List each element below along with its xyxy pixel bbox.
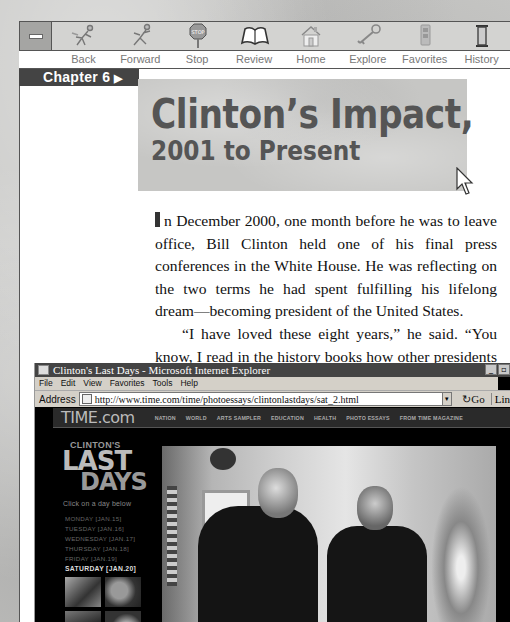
page-subtitle: 2001 to Present bbox=[151, 135, 360, 166]
url-text: http://www.time.com/time/photoessays/cli… bbox=[95, 394, 359, 405]
address-input[interactable]: http://www.time.com/time/photoessays/cli… bbox=[79, 392, 444, 406]
minimize-icon bbox=[29, 34, 43, 39]
back-label[interactable]: Back bbox=[55, 51, 111, 68]
ie-page-icon bbox=[38, 365, 49, 375]
links-button[interactable]: Lin bbox=[491, 393, 510, 405]
day-link-monday[interactable]: MONDAY [JAN.15] bbox=[65, 514, 136, 524]
nav-world[interactable]: WORLD bbox=[186, 415, 207, 421]
day-link-friday[interactable]: FRIDAY [JAN.19] bbox=[65, 554, 136, 564]
webpage-content: TIME.com NATION WORLD ARTS SAMPLER EDUCA… bbox=[35, 407, 510, 622]
nav-from-time-magazine[interactable]: FROM TIME MAGAZINE bbox=[400, 415, 463, 421]
running-figure-right-icon bbox=[126, 23, 156, 49]
site-header: TIME.com NATION WORLD ARTS SAMPLER EDUCA… bbox=[53, 408, 510, 428]
thumbnail[interactable] bbox=[65, 611, 101, 622]
page-icon bbox=[82, 394, 92, 404]
main-photo bbox=[162, 446, 496, 622]
explore-label[interactable]: Explore bbox=[340, 51, 396, 68]
address-label: Address bbox=[39, 394, 76, 405]
bookmark-icon bbox=[410, 23, 440, 49]
address-bar: Address http://www.time.com/time/photoes… bbox=[35, 390, 510, 407]
chapter-tab[interactable]: Chapter 6▶ bbox=[19, 69, 139, 86]
nav-education[interactable]: EDUCATION bbox=[271, 415, 304, 421]
review-label[interactable]: Review bbox=[226, 51, 282, 68]
menu-view[interactable]: View bbox=[83, 377, 101, 390]
paragraph-1: n December 2000, one month before he was… bbox=[155, 210, 497, 323]
stop-sign-icon: STOP bbox=[183, 23, 213, 49]
day-link-thursday[interactable]: THURSDAY [JAN.18] bbox=[65, 544, 136, 554]
window-minimize-button[interactable]: _ bbox=[485, 364, 497, 375]
mouse-pointer-icon bbox=[456, 167, 478, 199]
home-button[interactable] bbox=[291, 22, 331, 50]
address-dropdown-button[interactable]: ▾ bbox=[442, 392, 452, 406]
thumbnail[interactable] bbox=[105, 577, 141, 607]
window-title: Clinton's Last Days - Microsoft Internet… bbox=[53, 364, 270, 376]
thumbnail[interactable] bbox=[105, 611, 141, 622]
history-button[interactable] bbox=[462, 22, 502, 50]
forward-label[interactable]: Forward bbox=[112, 51, 168, 68]
favorites-button[interactable] bbox=[405, 22, 445, 50]
time-logo[interactable]: TIME.com bbox=[61, 408, 135, 427]
house-icon bbox=[296, 23, 326, 49]
minimize-button[interactable] bbox=[20, 22, 52, 50]
photo-thumbnails bbox=[65, 577, 141, 622]
day-prompt: Click on a day below bbox=[63, 500, 131, 507]
nav-toolbar: STOP bbox=[19, 21, 510, 51]
menu-tools[interactable]: Tools bbox=[153, 377, 173, 390]
nav-nation[interactable]: NATION bbox=[155, 415, 176, 421]
page-title: Clinton’s Impact, bbox=[151, 91, 473, 137]
browser-throbber-icon bbox=[498, 377, 510, 390]
chapter-title-box: Clinton’s Impact, 2001 to Present bbox=[138, 79, 467, 191]
nav-health[interactable]: HEALTH bbox=[314, 415, 336, 421]
browser-screenshot: Clinton's Last Days - Microsoft Internet… bbox=[34, 363, 510, 622]
nav-photo-essays[interactable]: PHOTO ESSAYS bbox=[346, 415, 390, 421]
open-book-icon bbox=[240, 23, 270, 49]
key-icon bbox=[353, 23, 383, 49]
svg-text:STOP: STOP bbox=[191, 29, 204, 35]
thumbnail[interactable] bbox=[65, 577, 101, 607]
site-nav: NATION WORLD ARTS SAMPLER EDUCATION HEAL… bbox=[155, 415, 463, 421]
drop-cap bbox=[155, 212, 160, 227]
chevron-right-icon: ▶ bbox=[114, 70, 122, 87]
day-link-wednesday[interactable]: WEDNESDAY [JAN.17] bbox=[65, 534, 136, 544]
day-link-tuesday[interactable]: TUESDAY [JAN.16] bbox=[65, 524, 136, 534]
chapter-label: Chapter 6 bbox=[43, 69, 110, 85]
menu-help[interactable]: Help bbox=[180, 377, 197, 390]
window-restore-button[interactable]: ▫ bbox=[498, 364, 510, 375]
nav-labels: Back Forward Stop Review Home Explore Fa… bbox=[19, 51, 510, 69]
explore-button[interactable] bbox=[348, 22, 388, 50]
day-link-saturday[interactable]: SATURDAY [JAN.20] bbox=[65, 564, 136, 574]
clintons-last-days-logo: CLINTON'S LAST DAYS bbox=[62, 440, 162, 492]
browser-menubar: File Edit View Favorites Tools Help bbox=[35, 377, 510, 390]
back-button[interactable] bbox=[64, 22, 104, 50]
history-label[interactable]: History bbox=[454, 51, 510, 68]
stop-label[interactable]: Stop bbox=[169, 51, 225, 68]
go-button[interactable]: ↻Go bbox=[462, 393, 484, 406]
favorites-label[interactable]: Favorites bbox=[397, 51, 453, 68]
day-list: MONDAY [JAN.15] TUESDAY [JAN.16] WEDNESD… bbox=[65, 514, 136, 574]
nav-arts-sampler[interactable]: ARTS SAMPLER bbox=[217, 415, 261, 421]
hourglass-icon bbox=[467, 23, 497, 49]
browser-titlebar: Clinton's Last Days - Microsoft Internet… bbox=[35, 363, 510, 377]
menu-favorites[interactable]: Favorites bbox=[110, 377, 145, 390]
forward-button[interactable] bbox=[121, 22, 161, 50]
stop-button[interactable]: STOP bbox=[178, 22, 218, 50]
running-figure-left-icon bbox=[69, 23, 99, 49]
review-button[interactable] bbox=[235, 22, 275, 50]
menu-edit[interactable]: Edit bbox=[61, 377, 76, 390]
home-label[interactable]: Home bbox=[283, 51, 339, 68]
menu-file[interactable]: File bbox=[39, 377, 53, 390]
